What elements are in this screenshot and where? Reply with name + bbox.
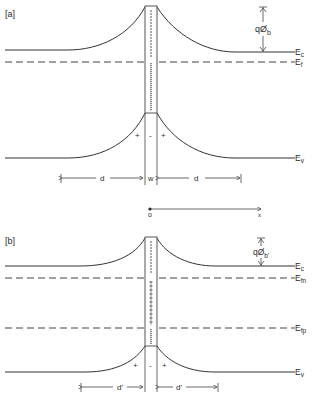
position-axis: o x [148,207,261,218]
panel-b-ev-label: Ev [295,367,305,378]
panel-b: [b] [5,236,306,392]
panel-a-label: [a] [5,9,15,19]
svg-text:d: d [100,174,104,183]
panel-b-charge-center: - [149,361,152,370]
panel-a-ev-label: Ev [295,153,305,164]
panel-a-dimensions: d w d [61,174,241,183]
panel-b-dimensions: d' d' [81,383,218,392]
panel-b-efn-label: Efn [295,273,306,284]
panel-b-charge-right: + [162,361,167,370]
panel-a-charge-center: - [149,131,152,140]
panel-a-ef-label: Ef [295,57,303,68]
panel-a: [a] qØb [5,6,305,185]
svg-text:d': d' [176,383,182,392]
panel-a-grain-boundary [145,6,157,113]
panel-b-efp-label: Efp [295,323,306,335]
svg-text:w: w [147,174,154,183]
panel-a-charge-left: + [135,131,140,140]
svg-text:d: d [194,174,198,183]
panel-a-charge-right: + [161,131,166,140]
panel-b-ec-label: Ec [295,261,305,272]
axis-x-label: x [258,212,261,218]
panel-b-barrier-height: qØb' [252,238,276,266]
panel-b-label: [b] [5,236,15,246]
svg-text:d': d' [117,383,123,392]
band-diagram: [a] qØb [0,0,313,404]
panel-b-charge-left: + [133,361,138,370]
axis-origin-label: o [148,211,152,218]
panel-a-barrier-height: qØb [252,7,278,52]
